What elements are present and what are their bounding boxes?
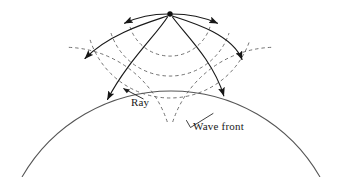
wave-front-arcs bbox=[67, 27, 272, 122]
figure-canvas bbox=[0, 0, 338, 177]
source-point bbox=[167, 11, 172, 16]
ray-left-3 bbox=[108, 17, 168, 100]
wave-front-arc-4b bbox=[173, 47, 273, 122]
wave-front-label: Wave front bbox=[193, 120, 244, 132]
ray-wavefront-figure: Ray Wave front bbox=[0, 0, 338, 177]
wave-front-arc-2 bbox=[111, 33, 229, 76]
wave-front-arc-3 bbox=[90, 40, 250, 98]
wave-front-arc-4 bbox=[67, 47, 167, 122]
outer-boundary-circle bbox=[22, 91, 320, 177]
ray-label: Ray bbox=[131, 96, 149, 108]
ray-right-2 bbox=[173, 16, 243, 60]
wave-front-arc-1 bbox=[130, 27, 210, 56]
